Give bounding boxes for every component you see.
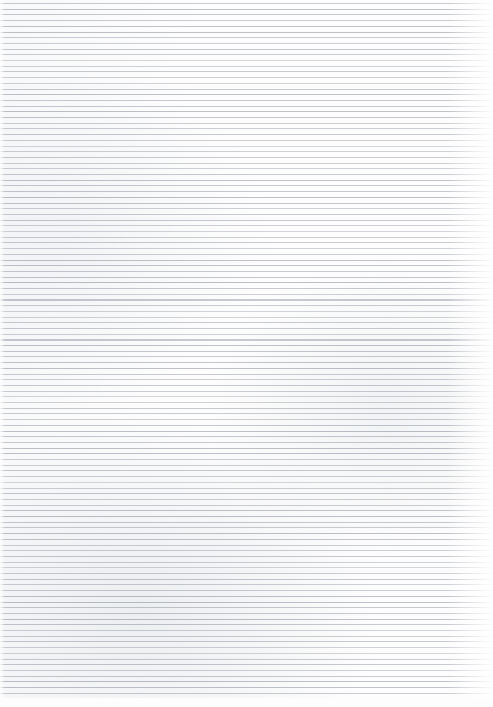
rule-line xyxy=(0,362,493,363)
rule-line xyxy=(0,277,493,278)
rule-line xyxy=(0,322,493,323)
rule-line xyxy=(0,374,493,375)
rule-line xyxy=(0,168,493,169)
rule-line xyxy=(0,191,493,192)
rule-line xyxy=(0,334,493,335)
rule-line xyxy=(0,636,493,637)
rule-line xyxy=(0,516,493,517)
rule-line xyxy=(0,106,493,107)
rule-line xyxy=(0,659,493,660)
rule-line xyxy=(0,220,493,221)
rule-line xyxy=(0,579,493,580)
rule-line xyxy=(0,425,493,426)
rule-line xyxy=(0,254,493,255)
rule-line xyxy=(0,185,493,186)
rule-line xyxy=(0,607,493,608)
rule-line xyxy=(0,14,493,15)
rule-line xyxy=(0,413,493,414)
rule-line xyxy=(0,419,493,420)
rule-line xyxy=(0,630,493,631)
rule-line xyxy=(0,66,493,67)
rule-line xyxy=(0,328,493,329)
rule-line xyxy=(0,26,493,27)
rule-line xyxy=(0,94,493,95)
rule-line xyxy=(0,32,493,33)
rule-line xyxy=(0,442,493,443)
rule-line xyxy=(0,208,493,209)
rule-line xyxy=(0,505,493,506)
rule-line xyxy=(0,49,493,50)
rule-line xyxy=(0,533,493,534)
rule-line xyxy=(0,128,493,129)
rule-line xyxy=(0,619,493,620)
rule-line xyxy=(0,123,493,124)
rule-line xyxy=(0,602,493,603)
rule-line xyxy=(0,83,493,84)
rule-line xyxy=(0,681,493,682)
rule-line xyxy=(0,676,493,677)
rule-line xyxy=(0,77,493,78)
rule-line xyxy=(0,294,493,295)
rule-line xyxy=(0,408,493,409)
rule-line xyxy=(0,37,493,38)
rule-line xyxy=(0,482,493,483)
ruled-lines-layer xyxy=(0,0,493,707)
rule-line xyxy=(0,465,493,466)
rule-line xyxy=(0,100,493,101)
rule-line xyxy=(0,431,493,432)
rule-line xyxy=(0,146,493,147)
rule-line xyxy=(0,567,493,568)
rule-line xyxy=(0,396,493,397)
rule-line xyxy=(0,43,493,44)
rule-line xyxy=(0,470,493,471)
rule-line xyxy=(0,237,493,238)
rule-line xyxy=(0,522,493,523)
rule-line xyxy=(0,282,493,283)
rule-line xyxy=(0,151,493,152)
rule-line xyxy=(0,351,493,352)
rule-line xyxy=(0,653,493,654)
rule-line xyxy=(0,305,493,306)
rule-line xyxy=(0,556,493,557)
rule-line xyxy=(0,157,493,158)
rule-line xyxy=(0,527,493,528)
rule-line xyxy=(0,590,493,591)
rule-line xyxy=(0,379,493,380)
rule-line xyxy=(0,242,493,243)
rule-line xyxy=(0,140,493,141)
rule-line xyxy=(0,197,493,198)
rule-line xyxy=(0,562,493,563)
rule-line xyxy=(0,174,493,175)
rule-line xyxy=(0,356,493,357)
rule-line xyxy=(0,317,493,318)
rule-line xyxy=(0,573,493,574)
rule-line xyxy=(0,499,493,500)
rule-line xyxy=(0,613,493,614)
rule-line xyxy=(0,448,493,449)
rule-line xyxy=(0,339,493,340)
rule-line xyxy=(0,539,493,540)
rule-line xyxy=(0,214,493,215)
rule-line xyxy=(0,596,493,597)
rule-line xyxy=(0,117,493,118)
rule-line xyxy=(0,641,493,642)
rule-line xyxy=(0,225,493,226)
rule-line xyxy=(0,385,493,386)
rule-line xyxy=(0,493,493,494)
rule-line xyxy=(0,510,493,511)
rule-line xyxy=(0,402,493,403)
rule-line xyxy=(0,288,493,289)
rule-line xyxy=(0,299,493,300)
rule-line xyxy=(0,436,493,437)
rule-line xyxy=(0,180,493,181)
rule-line xyxy=(0,111,493,112)
rule-line xyxy=(0,54,493,55)
rule-line xyxy=(0,476,493,477)
rule-line xyxy=(0,647,493,648)
rule-line xyxy=(0,345,493,346)
rule-line xyxy=(0,693,493,694)
rule-line xyxy=(0,664,493,665)
rule-line xyxy=(0,71,493,72)
bottom-margin xyxy=(0,698,493,707)
rule-line xyxy=(0,488,493,489)
